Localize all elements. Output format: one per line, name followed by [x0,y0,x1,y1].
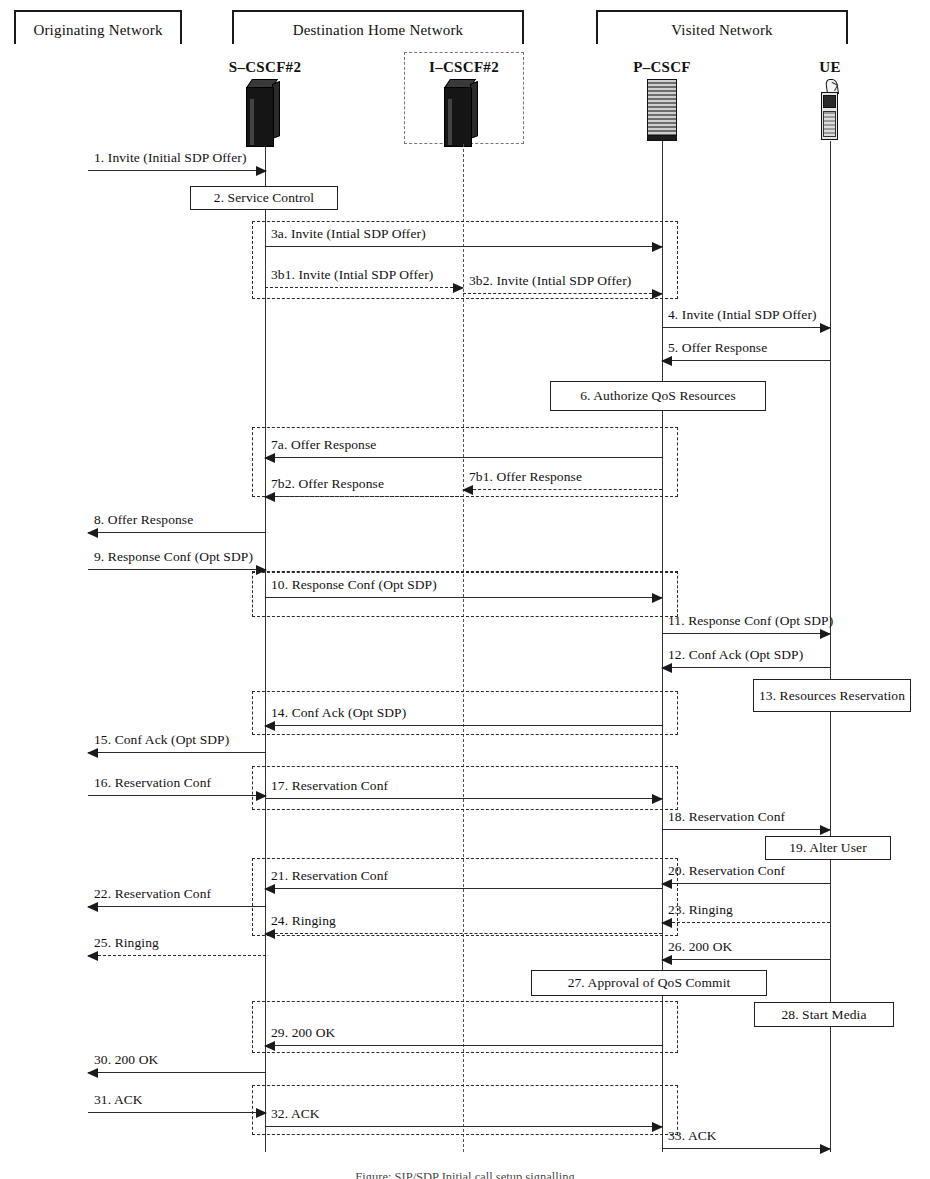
message-label-7b1: 7b1. Offer Response [469,469,582,485]
message-label-25: 25. Ringing [94,935,159,951]
network-label-destination-home: Destination Home Network [232,22,524,39]
message-label-1: 1. Invite (Initial SDP Offer) [94,150,247,166]
message-label-22: 22. Reservation Conf [94,886,211,902]
process-box-6: 6. Authorize QoS Resources [550,381,766,411]
actor-label-p-cscf: P–CSCF [592,59,732,76]
message-label-20: 20. Reservation Conf [668,863,785,879]
actor-label-s-cscf2: S–CSCF#2 [195,59,335,76]
message-label-21: 21. Reservation Conf [271,868,388,884]
message-label-29: 29. 200 OK [271,1025,335,1041]
process-box-13: 13. Resources Reservation [753,679,911,712]
sequence-diagram-canvas: Originating Network Destination Home Net… [0,0,930,1179]
message-label-10: 10. Response Conf (Opt SDP) [271,577,437,593]
message-label-3a: 3a. Invite (Intial SDP Offer) [271,226,426,242]
network-label-originating: Originating Network [14,22,182,39]
message-label-24: 24. Ringing [271,913,336,929]
message-label-31: 31. ACK [94,1092,143,1108]
message-label-16: 16. Reservation Conf [94,775,211,791]
process-box-label-2: 2. Service Control [214,190,314,206]
message-label-7b2: 7b2. Offer Response [271,476,384,492]
actor-label-ue: UE [760,59,900,76]
message-label-3b1: 3b1. Invite (Intial SDP Offer) [271,267,433,283]
process-box-28: 28. Start Media [754,1002,894,1027]
message-label-26: 26. 200 OK [668,939,732,955]
server-tower-icon-i-cscf2 [444,79,484,147]
process-box-label-13: 13. Resources Reservation [759,688,905,704]
message-label-9: 9. Response Conf (Opt SDP) [94,549,253,565]
message-label-5: 5. Offer Response [668,340,767,356]
message-label-14: 14. Conf Ack (Opt SDP) [271,705,406,721]
process-box-label-28: 28. Start Media [781,1007,866,1023]
message-label-33: 33. ACK [668,1128,717,1144]
message-label-23: 23. Ringing [668,902,733,918]
message-label-15: 15. Conf Ack (Opt SDP) [94,732,229,748]
message-label-17: 17. Reservation Conf [271,778,388,794]
process-box-2: 2. Service Control [190,186,338,210]
process-box-27: 27. Approval of QoS Commit [531,970,767,996]
mobile-phone-icon-ue [817,79,845,141]
message-label-30: 30. 200 OK [94,1052,158,1068]
message-label-4: 4. Invite (Intial SDP Offer) [668,307,817,323]
message-label-3b2: 3b2. Invite (Intial SDP Offer) [469,273,631,289]
message-label-8: 8. Offer Response [94,512,193,528]
lifeline-ue [830,141,831,1152]
process-box-label-6: 6. Authorize QoS Resources [580,388,736,404]
network-label-visited: Visited Network [596,22,848,39]
process-box-19: 19. Alter User [765,836,891,860]
process-box-label-27: 27. Approval of QoS Commit [568,975,731,991]
server-rack-icon-p-cscf [647,79,677,141]
message-label-32: 32. ACK [271,1106,320,1122]
message-label-12: 12. Conf Ack (Opt SDP) [668,647,803,663]
message-label-7a: 7a. Offer Response [271,437,376,453]
process-box-label-19: 19. Alter User [789,840,867,856]
figure-caption: Figure: SIP/SDP Initial call setup signa… [0,1170,930,1179]
server-tower-icon-s-cscf2 [246,79,286,147]
message-label-18: 18. Reservation Conf [668,809,785,825]
actor-label-i-cscf2: I–CSCF#2 [394,59,534,76]
message-label-11: 11. Response Conf (Opt SDP) [668,613,833,629]
